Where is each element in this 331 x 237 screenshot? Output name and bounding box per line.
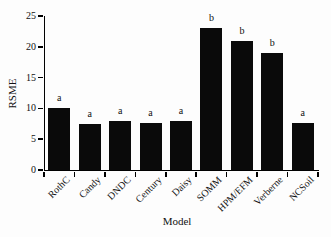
bar-significance-letter: b (232, 25, 252, 36)
bar-significance-letter: b (201, 12, 221, 23)
y-axis-tick (38, 169, 43, 171)
y-tick-label: 10 (12, 102, 36, 114)
x-axis-tick (104, 172, 106, 177)
y-axis-tick (38, 138, 43, 140)
bar-rothc (48, 108, 70, 170)
y-tick-label: 15 (12, 72, 36, 84)
bar-daisy (170, 121, 192, 170)
y-tick-label: 25 (12, 10, 36, 22)
x-axis-tick (195, 172, 197, 177)
x-axis-tick (226, 172, 228, 177)
x-axis-tick (165, 172, 167, 177)
y-axis-tick (38, 77, 43, 79)
x-axis-tick (317, 172, 319, 177)
bar-significance-letter: a (141, 107, 161, 118)
bar-significance-letter: a (80, 108, 100, 119)
y-axis-tick (38, 108, 43, 110)
x-axis-tick (135, 172, 137, 177)
y-tick-label: 20 (12, 41, 36, 53)
y-tick-label: 0 (12, 164, 36, 176)
y-axis-title: RSME (6, 54, 19, 134)
y-axis-tick (38, 46, 43, 48)
bar-significance-letter: b (262, 37, 282, 48)
y-tick-label: 5 (12, 133, 36, 145)
bar-significance-letter: a (171, 105, 191, 116)
bar-dndc (109, 121, 131, 170)
y-axis-tick (38, 15, 43, 17)
x-axis-tick (74, 172, 76, 177)
bar-candy (79, 124, 101, 170)
bar-significance-letter: a (110, 105, 130, 116)
bar-significance-letter: a (293, 107, 313, 118)
x-axis-tick (43, 172, 45, 177)
bar-significance-letter: a (49, 92, 69, 103)
bar-verberne (261, 53, 283, 170)
bar-ncsoil (292, 123, 314, 170)
bar-chart: RSME Model 0510152025aRothCaCandyaDNDCaC… (0, 0, 331, 237)
bar-century (140, 123, 162, 170)
x-axis-tick (287, 172, 289, 177)
bar-somm (200, 28, 222, 170)
x-axis-tick (256, 172, 258, 177)
bar-hpm-efm (231, 41, 253, 170)
